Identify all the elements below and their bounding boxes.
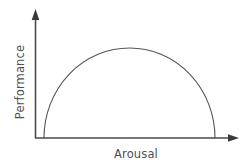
- x-axis-arrow-right-icon: [228, 134, 239, 142]
- x-axis-label: Arousal: [114, 147, 158, 161]
- y-axis-arrow-up-icon: [32, 9, 40, 20]
- performance-arousal-curve: [44, 48, 215, 138]
- y-axis-label: Performance: [13, 45, 27, 120]
- figure-canvas: Arousal Performance: [0, 0, 249, 166]
- chart-svg: Arousal Performance: [0, 0, 249, 166]
